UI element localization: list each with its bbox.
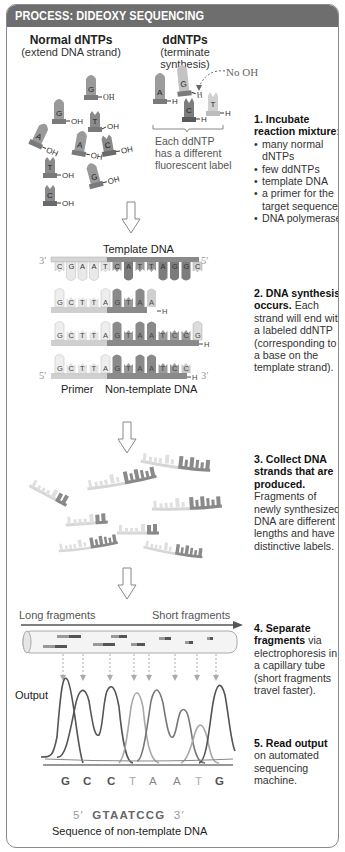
svg-text:T: T: [126, 364, 131, 373]
output-base: T: [129, 775, 136, 787]
sequence-value: GTAATCCG: [92, 809, 165, 821]
normal-dntps-title: Normal dNTPs: [23, 33, 119, 47]
svg-text:OH: OH: [120, 145, 134, 156]
figure-header: PROCESS: DIDEOXY SEQUENCING: [7, 5, 338, 27]
svg-text:OH: OH: [103, 93, 115, 102]
step-3-title: 3. Collect DNA strands that are produced…: [254, 453, 333, 490]
long-fragments-label: Long fragments: [19, 609, 95, 621]
no-oh-label: No OH: [226, 66, 258, 78]
svg-text:OH: OH: [62, 171, 74, 180]
svg-text:T: T: [80, 364, 85, 373]
figure-frame: PROCESS: DIDEOXY SEQUENCING Normal dNTPs…: [6, 4, 339, 848]
svg-text:T: T: [80, 331, 85, 340]
svg-text:A: A: [103, 331, 108, 340]
svg-text:A: A: [149, 298, 154, 307]
step-4-title: 4. Separate fragments: [254, 622, 311, 646]
svg-text:A: A: [149, 331, 154, 340]
svg-text:T: T: [103, 262, 108, 271]
svg-text:T: T: [126, 331, 131, 340]
svg-text:A: A: [138, 331, 143, 340]
svg-text:OH: OH: [107, 122, 119, 131]
figure-title: PROCESS: DIDEOXY SEQUENCING: [15, 9, 204, 23]
svg-text:G: G: [115, 298, 121, 307]
down-arrow-icon: [117, 567, 137, 601]
svg-text:G: G: [195, 331, 201, 340]
svg-text:G: G: [69, 262, 75, 271]
svg-text:T: T: [161, 364, 166, 373]
svg-text:C: C: [69, 331, 75, 340]
svg-text:C: C: [195, 262, 201, 271]
chromatogram: [41, 677, 241, 773]
step-1-bullets: many normal dNTPs few ddNTPs template DN…: [254, 138, 339, 225]
primer-label: Primer: [61, 383, 93, 395]
svg-text:T: T: [138, 262, 143, 271]
sequence-5-end: 5′: [73, 809, 84, 821]
svg-text:C: C: [184, 364, 190, 373]
svg-text:G: G: [180, 80, 187, 90]
nontemplate-label: Non-template DNA: [105, 383, 197, 395]
svg-text:G: G: [115, 331, 121, 340]
ddntp-caption-line: has a different: [155, 147, 231, 159]
svg-text:H: H: [196, 90, 203, 100]
svg-text:C: C: [47, 191, 53, 200]
svg-text:T: T: [211, 100, 216, 109]
svg-text:C: C: [69, 364, 75, 373]
bullet-item: a primer for the target sequence: [254, 187, 339, 212]
svg-text:T: T: [161, 331, 166, 340]
normal-dntps-subtitle: (extend DNA strand): [11, 46, 131, 58]
output-base: C: [83, 775, 91, 787]
svg-text:A: A: [126, 262, 131, 271]
ddntp-caption-line: fluorescent label: [155, 159, 231, 171]
svg-text:H: H: [225, 109, 231, 118]
svg-text:G: G: [184, 262, 190, 271]
svg-text:A: A: [138, 298, 143, 307]
svg-text:T: T: [92, 331, 97, 340]
svg-text:G: G: [88, 85, 94, 94]
output-base: C: [107, 775, 115, 787]
dna-fragments: [27, 441, 227, 571]
svg-text:A: A: [103, 298, 108, 307]
svg-text:T: T: [80, 298, 85, 307]
svg-text:G: G: [56, 109, 62, 118]
svg-text:OH: OH: [107, 174, 121, 186]
svg-text:G: G: [172, 262, 178, 271]
svg-text:G: G: [57, 331, 63, 340]
svg-text:C: C: [184, 331, 190, 340]
svg-text:H: H: [172, 97, 178, 106]
svg-text:G: G: [115, 364, 121, 373]
strand-5-end: 5′: [39, 370, 47, 381]
step-1: 1. Incubate reaction mixture: many norma…: [254, 113, 339, 225]
svg-text:T: T: [92, 298, 97, 307]
bullet-item: template DNA: [254, 175, 339, 187]
svg-text:H: H: [192, 373, 197, 382]
svg-text:OH: OH: [71, 117, 83, 126]
svg-text:G: G: [57, 364, 63, 373]
svg-text:A: A: [161, 262, 166, 271]
svg-text:C: C: [115, 262, 121, 271]
svg-text:A: A: [157, 88, 163, 97]
sequence-line: 5′ GTAATCCG 3′: [73, 809, 185, 821]
bullet-item: many normal dNTPs: [254, 138, 339, 163]
ddntp-caption: Each ddNTP has a different fluorescent l…: [155, 135, 231, 171]
step-3: 3. Collect DNA strands that are produced…: [254, 453, 339, 552]
svg-text:C: C: [172, 364, 178, 373]
ddntps-title: ddNTPs: [135, 33, 235, 47]
step-5-body: on automated sequencing machine.: [254, 749, 339, 786]
step-5-title: 5. Read output: [254, 737, 328, 749]
svg-text:A: A: [92, 262, 97, 271]
svg-text:C: C: [186, 106, 192, 115]
svg-text:C: C: [57, 262, 63, 271]
step-1-title: 1. Incubate reaction mixture:: [254, 113, 339, 137]
svg-text:A: A: [103, 364, 108, 373]
output-base: A: [173, 775, 181, 787]
output-base: A: [149, 775, 157, 787]
strand-3-end: 3′: [201, 370, 209, 381]
svg-text:G: G: [57, 298, 63, 307]
template-dna-label: Template DNA: [103, 243, 174, 255]
svg-text:H: H: [201, 115, 207, 124]
svg-text:A: A: [149, 364, 154, 373]
normal-dntp-molecules: G OH G OH T OH A OH A OH C: [7, 61, 137, 211]
svg-text:T: T: [149, 262, 154, 271]
output-base: G: [215, 775, 224, 787]
ddntp-caption-line: Each ddNTP: [155, 135, 231, 147]
